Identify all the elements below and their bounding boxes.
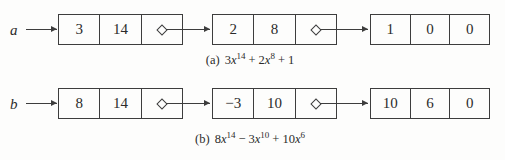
caption-b: (b)8x14−3x10+10x6	[0, 132, 500, 147]
arrow-b-to-node1	[26, 103, 57, 104]
caption-b-label: (b)	[195, 132, 210, 146]
term: +2x8	[246, 53, 275, 67]
term: 8x14	[215, 132, 236, 146]
exp-cell: 0	[410, 15, 450, 44]
exp-cell: 10	[253, 89, 294, 118]
term: −3x10	[235, 132, 269, 146]
linked-list-figure: a 3 14 2 8 1 0 0 (a)3x14+2x8+1 b 8 14 −3	[0, 0, 505, 160]
arrow-a-to-node1	[26, 29, 57, 30]
coef-cell: 8	[59, 89, 99, 118]
list-b-node-2: −3 10	[212, 88, 337, 119]
coef-cell: 3	[59, 15, 99, 44]
coef-cell: −3	[213, 89, 253, 118]
exp-cell: 14	[99, 15, 140, 44]
list-a-node-2: 2 8	[212, 14, 337, 45]
exp-cell: 14	[99, 89, 140, 118]
list-a-node-3: 1 0 0	[370, 14, 490, 45]
coef-cell: 2	[213, 15, 253, 44]
term: +1	[275, 53, 294, 67]
coef-cell: 1	[371, 15, 410, 44]
arrow-b-node1-to-node2	[166, 103, 210, 104]
term: 3x14	[225, 53, 246, 67]
arrow-b-node2-to-node3	[320, 103, 368, 104]
arrow-a-node2-to-node3	[320, 29, 368, 30]
list-b-label: b	[10, 95, 18, 113]
exp-cell: 8	[253, 15, 294, 44]
list-b-node-1: 8 14	[58, 88, 183, 119]
list-b-node-3: 10 6 0	[370, 88, 490, 119]
list-a-label: a	[10, 21, 18, 39]
term: +10x6	[269, 132, 305, 146]
coef-cell: 10	[371, 89, 410, 118]
null-pointer-cell: 0	[449, 15, 489, 44]
exp-cell: 6	[410, 89, 450, 118]
null-pointer-cell: 0	[449, 89, 489, 118]
arrow-a-node1-to-node2	[166, 29, 210, 30]
list-a-node-1: 3 14	[58, 14, 183, 45]
caption-a-label: (a)	[206, 53, 220, 67]
caption-a: (a)3x14+2x8+1	[0, 53, 500, 68]
